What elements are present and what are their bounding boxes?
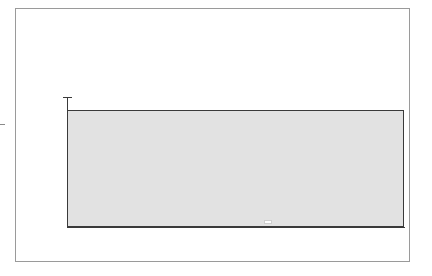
- chart-plot-wrapper: [52, 93, 406, 233]
- figure-frame: [15, 8, 410, 262]
- page-edge-mark: [0, 124, 5, 125]
- area-series-svg: [68, 111, 403, 226]
- x-axis-line: [67, 227, 405, 228]
- chart-page: [0, 0, 432, 276]
- series-label-interest: [264, 220, 272, 224]
- plot-area: [67, 110, 404, 227]
- y-axis-top-cap: [63, 97, 72, 98]
